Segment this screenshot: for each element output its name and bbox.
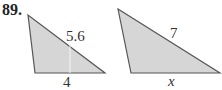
problem-number: 89. xyxy=(2,1,22,19)
similar-triangles-figure: 89. 5.6 4 7 x xyxy=(0,0,222,90)
right-triangle xyxy=(118,9,220,73)
right-hypotenuse-label: 7 xyxy=(170,25,178,42)
left-base-label: 4 xyxy=(63,74,71,90)
triangles-drawing xyxy=(0,0,222,90)
left-hypotenuse-label: 5.6 xyxy=(66,28,85,45)
right-base-label: x xyxy=(168,73,175,90)
